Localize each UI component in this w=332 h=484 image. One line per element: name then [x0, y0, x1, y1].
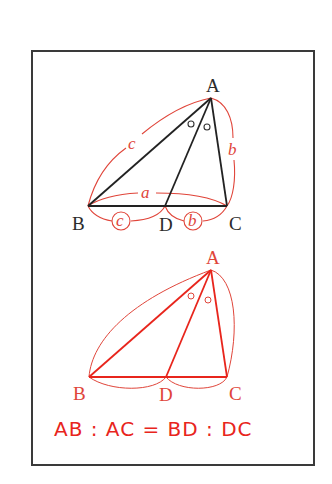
arc-bd-left: [88, 206, 112, 221]
side-ab-bottom: [89, 270, 211, 377]
arc-ac: [211, 270, 234, 377]
side-ab: [88, 98, 211, 206]
top-triangle-lines: [88, 98, 227, 206]
side-label-c: c: [128, 134, 136, 153]
arc-dc: [166, 377, 227, 388]
angle-mark-right-bottom: [205, 297, 211, 303]
segment-label-dc: b: [188, 211, 197, 230]
side-label-a: a: [141, 183, 150, 202]
ratio-formula: AB : AC = BD : DC: [54, 417, 253, 441]
arc-bd: [89, 377, 166, 388]
angle-mark-left-bottom: [188, 293, 194, 299]
side-label-b: b: [228, 140, 237, 159]
bottom-arcs: [89, 270, 234, 388]
vertex-label-c: C: [229, 213, 242, 234]
top-triangle-figure: A B D C c b a c b: [72, 75, 242, 235]
vertex-label-b: B: [72, 213, 85, 234]
arc-b-lower: [227, 160, 235, 206]
angle-bisector-diagram: A B D C c b a c b A: [0, 0, 332, 484]
vertex-label-d: D: [159, 214, 173, 235]
angle-mark-right: [204, 124, 210, 130]
side-ac: [211, 98, 227, 206]
vertex-label-c-bottom: C: [229, 383, 242, 404]
bottom-triangle-lines: [89, 270, 227, 377]
bottom-triangle-figure: A B D C: [73, 247, 242, 405]
vertex-label-b-bottom: B: [73, 383, 86, 404]
arc-dc-right: [203, 206, 227, 221]
bisector-ad: [165, 98, 211, 206]
side-ac-bottom: [211, 270, 227, 377]
vertex-label-d-bottom: D: [159, 384, 173, 405]
vertex-label-a-bottom: A: [206, 247, 220, 268]
angle-mark-left: [188, 121, 194, 127]
vertex-label-a: A: [206, 75, 220, 96]
segment-label-bd: c: [116, 211, 124, 230]
top-side-arcs: [88, 98, 235, 230]
